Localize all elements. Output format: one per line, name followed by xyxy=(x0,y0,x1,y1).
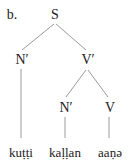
branch-s-nbar xyxy=(22,24,54,50)
word-kutti: kuṭṭi xyxy=(9,146,33,160)
node-nbar: N′ xyxy=(15,53,28,67)
branch-vbar-v xyxy=(88,70,108,97)
branch-vbar-nbar xyxy=(66,70,86,97)
example-label: b. xyxy=(7,8,18,22)
node-v: V xyxy=(105,101,115,115)
node-s: S xyxy=(51,8,59,22)
branch-s-vbar xyxy=(56,24,86,50)
node-nbar-inner: N′ xyxy=(59,101,72,115)
word-kallan: kaḷḷan xyxy=(49,146,81,160)
tree-branches xyxy=(0,0,129,166)
node-vbar: V′ xyxy=(81,53,94,67)
word-aane: aaṇə xyxy=(98,146,122,160)
